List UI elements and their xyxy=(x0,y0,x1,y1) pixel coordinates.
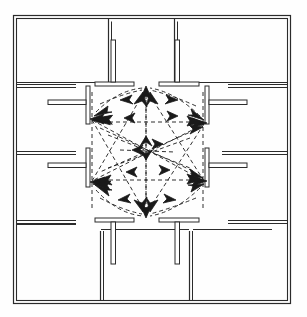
arrowhead-cluster-top-right xyxy=(187,109,207,134)
circulation-flow-arrows xyxy=(90,86,207,218)
room-partitions xyxy=(17,19,288,301)
arrowhead-midfield xyxy=(118,95,178,203)
floor-plan-canvas xyxy=(0,0,307,317)
arrowhead-cluster-bottom-right xyxy=(187,169,207,192)
perimeter-wall xyxy=(14,16,291,304)
floor-plan-diagram xyxy=(0,0,307,317)
atrium-wall-stubs xyxy=(48,40,247,264)
